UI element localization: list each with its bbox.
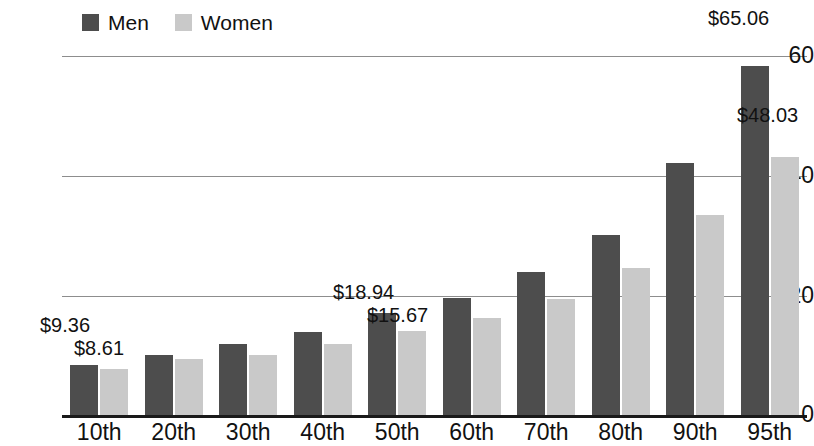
bar-group	[666, 50, 724, 415]
legend-item-men: Men	[82, 12, 149, 33]
bar-men	[70, 365, 98, 415]
bar-women	[547, 299, 575, 415]
bar-men	[145, 355, 173, 415]
bar-men	[666, 163, 694, 415]
bar-women	[324, 344, 352, 415]
value-label-women-10th: $8.61	[74, 338, 124, 358]
bar-group	[368, 50, 426, 415]
value-label-women-95th: $48.03	[737, 105, 798, 125]
value-label-men-10th: $9.36	[40, 315, 90, 335]
bar-women	[100, 369, 128, 415]
bar-men	[368, 313, 396, 415]
value-label-men-95th: $65.06	[708, 8, 769, 28]
bar-women	[771, 157, 799, 415]
x-axis-line	[62, 415, 807, 418]
bar-women	[249, 355, 277, 415]
legend-swatch-men	[82, 14, 99, 31]
bar-women	[175, 359, 203, 415]
bar-group	[592, 50, 650, 415]
bar-group	[443, 50, 501, 415]
bar-group	[294, 50, 352, 415]
legend-item-women: Women	[175, 12, 273, 33]
bar-group	[219, 50, 277, 415]
bar-group	[517, 50, 575, 415]
x-tick-70th: 70th	[509, 420, 584, 445]
bar-group	[70, 50, 128, 415]
bar-women	[473, 318, 501, 415]
bar-women	[696, 215, 724, 415]
bar-women	[622, 268, 650, 415]
x-tick-40th: 40th	[286, 420, 361, 445]
x-tick-20th: 20th	[137, 420, 212, 445]
x-tick-50th: 50th	[360, 420, 435, 445]
legend-label-men: Men	[108, 12, 149, 33]
value-label-women-50th: $15.67	[367, 305, 428, 325]
x-tick-95th: 95th	[733, 420, 808, 445]
x-tick-80th: 80th	[584, 420, 659, 445]
bar-men	[294, 332, 322, 415]
bar-men	[443, 298, 471, 415]
bar-women	[398, 331, 426, 415]
bar-group	[145, 50, 203, 415]
legend-swatch-women	[175, 14, 192, 31]
x-axis-labels: 10th20th30th40th50th60th70th80th90th95th	[62, 420, 807, 446]
x-tick-10th: 10th	[62, 420, 137, 445]
x-tick-60th: 60th	[435, 420, 510, 445]
bar-men	[592, 235, 620, 415]
x-tick-90th: 90th	[658, 420, 733, 445]
bar-men	[219, 344, 247, 415]
bar-groups	[62, 50, 807, 415]
legend-label-women: Women	[201, 12, 273, 33]
value-label-men-50th: $18.94	[333, 282, 394, 302]
chart-legend: Men Women	[82, 10, 273, 34]
bar-chart: Men Women 60 40 20 0 $9.36 $8.61 $18.94 …	[0, 0, 814, 446]
x-tick-30th: 30th	[211, 420, 286, 445]
bar-men	[517, 272, 545, 415]
